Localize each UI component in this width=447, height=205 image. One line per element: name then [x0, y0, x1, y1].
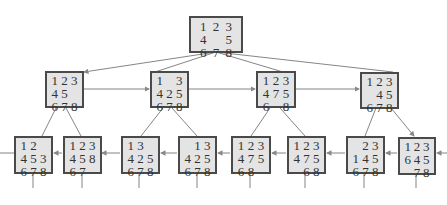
- tile: 7: [60, 100, 70, 113]
- puzzle-state-level2: 1 2 3 4 7 5 6 8: [231, 136, 271, 174]
- tile: 8: [246, 165, 256, 178]
- tile: 6: [403, 153, 412, 166]
- tile: 6: [365, 101, 375, 114]
- tile: 8: [281, 100, 291, 113]
- tile: 7: [210, 46, 223, 59]
- tile: 7: [412, 166, 421, 179]
- edge-n4-n12: [391, 108, 414, 136]
- tile: 6: [68, 165, 78, 178]
- puzzle-state-level1: 1 2 3 4 5 6 7 8: [360, 72, 399, 109]
- tile: 8: [370, 165, 380, 178]
- tile: 8: [422, 166, 431, 179]
- tile: 3: [69, 74, 79, 87]
- tile: 6: [261, 100, 271, 113]
- tile: 8: [174, 100, 184, 113]
- tile: 8: [69, 100, 79, 113]
- tile: 8: [38, 165, 48, 178]
- puzzle-state-level2: 1 2 4 5 3 6 7 8: [14, 136, 53, 174]
- tile: [403, 166, 412, 179]
- tile: 8: [202, 165, 212, 178]
- puzzle-state-level1: 1 2 3 4 5 6 7 8: [45, 71, 84, 108]
- figure-caption: [130, 192, 320, 200]
- tile: 7: [375, 101, 385, 114]
- tile: 8: [384, 101, 394, 114]
- tile: [256, 165, 266, 178]
- tile: 6: [302, 165, 312, 178]
- tile: [87, 165, 97, 178]
- tile: [271, 100, 281, 113]
- tile: 8: [145, 165, 155, 178]
- puzzle-state-level2: 1 2 3 4 7 5 6 8: [287, 136, 326, 174]
- tile: 6: [126, 165, 136, 178]
- puzzle-state-level2: 1 3 4 2 5 6 7 8: [121, 136, 160, 174]
- edge-root-n4: [216, 52, 393, 72]
- tile: 4: [292, 152, 302, 165]
- tile: 8: [222, 46, 235, 59]
- tile: 8: [87, 152, 97, 165]
- tile: 6: [197, 46, 210, 59]
- tile: 8: [311, 165, 321, 178]
- tile: 6: [155, 100, 165, 113]
- puzzle-state-level1: 1 2 3 4 7 5 6 8: [256, 71, 296, 108]
- tile: 7: [193, 165, 203, 178]
- puzzle-state-level1: 1 3 4 2 5 6 7 8: [150, 71, 189, 108]
- tile: 7: [361, 165, 371, 178]
- tile: 6: [19, 165, 29, 178]
- tile: 6: [351, 165, 361, 178]
- tile: 6: [183, 165, 193, 178]
- tile: 2: [210, 20, 223, 33]
- tile: 6: [50, 100, 60, 113]
- puzzle-state-level2: 1 2 3 4 5 8 6 7: [63, 136, 102, 174]
- puzzle-state-root: 1 2 3 4 5 6 7 8: [189, 16, 243, 53]
- tile: 5: [256, 152, 266, 165]
- tile: [292, 165, 302, 178]
- puzzle-state-level2: 1 3 4 2 5 6 7 8: [178, 136, 217, 174]
- puzzle-state-level2: 1 2 3 6 4 5 7 8: [398, 137, 436, 175]
- tile: 7: [271, 87, 281, 100]
- tile: 7: [29, 165, 39, 178]
- search-tree-diagram: 1 2 3 4 5 6 7 8 1 2 3 4 5 6 7 8 1 3 4 2 …: [0, 0, 447, 205]
- puzzle-state-level2: 2 3 1 4 5 6 7 8: [346, 136, 385, 174]
- tile: 1: [365, 75, 375, 88]
- tile: 7: [136, 165, 146, 178]
- tile: 6: [236, 165, 246, 178]
- tile: 7: [78, 165, 88, 178]
- tile: 7: [165, 100, 175, 113]
